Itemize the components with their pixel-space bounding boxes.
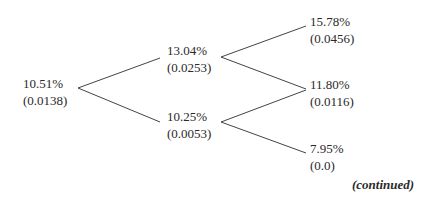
edge-up-updown: [221, 57, 306, 89]
node-updown: 11.80% (0.0116): [310, 76, 354, 110]
node-value: (0.0456): [310, 30, 354, 47]
node-value: (0.0138): [23, 92, 67, 109]
edge-root-down: [78, 88, 160, 122]
node-value: (0.0116): [310, 93, 354, 110]
node-value: (0.0253): [167, 59, 211, 76]
node-up: 13.04% (0.0253): [167, 42, 211, 76]
edge-root-up: [78, 58, 160, 88]
node-down: 10.25% (0.0053): [167, 108, 211, 142]
node-value: (0.0053): [167, 125, 211, 142]
continued-note: (continued): [352, 177, 414, 193]
node-rate: 11.80%: [310, 76, 354, 93]
node-value: (0.0): [310, 157, 344, 174]
node-rate: 7.95%: [310, 140, 344, 157]
node-root: 10.51% (0.0138): [23, 75, 67, 109]
edge-down-downdown: [221, 122, 306, 153]
node-rate: 10.51%: [23, 75, 67, 92]
edge-down-updown: [221, 90, 306, 122]
edge-up-upup: [221, 26, 306, 57]
node-rate: 13.04%: [167, 42, 211, 59]
node-upup: 15.78% (0.0456): [310, 13, 354, 47]
node-downdown: 7.95% (0.0): [310, 140, 344, 174]
node-rate: 15.78%: [310, 13, 354, 30]
node-rate: 10.25%: [167, 108, 211, 125]
